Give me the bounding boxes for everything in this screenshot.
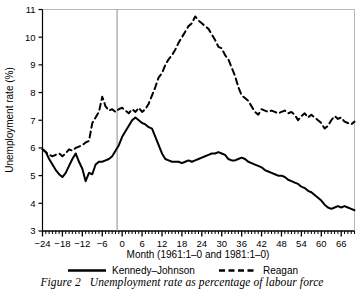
figure-caption-text: Unemployment rate as percentage of labou… bbox=[90, 276, 324, 288]
unemployment-rate-chart: 34567891011 −24−18−12−606121824303642485… bbox=[0, 0, 364, 297]
x-axis-tick-label: 30 bbox=[216, 238, 227, 249]
x-axis-tick-labels: −24−18−12−60612182430364248546066 bbox=[34, 238, 346, 249]
y-axis-tick-label: 8 bbox=[30, 87, 35, 98]
y-axis-tick-label: 7 bbox=[30, 115, 35, 126]
x-axis-tick-label: −18 bbox=[54, 238, 70, 249]
x-axis-tick-label: 42 bbox=[256, 238, 267, 249]
y-axis-tick-label: 5 bbox=[30, 170, 35, 181]
y-axis-tick-labels: 34567891011 bbox=[25, 4, 36, 237]
legend-label-reagan: Reagan bbox=[263, 265, 298, 276]
x-axis-tick-label: −24 bbox=[34, 238, 50, 249]
x-axis-tick-label: 54 bbox=[296, 238, 307, 249]
x-axis-tick-label: 18 bbox=[177, 238, 188, 249]
legend-label-kennedy-johnson: Kennedy–Johnson bbox=[112, 265, 195, 276]
y-axis-tick-label: 11 bbox=[26, 4, 36, 15]
figure-container: 34567891011 −24−18−12−606121824303642485… bbox=[0, 0, 364, 297]
y-axis-tick-label: 4 bbox=[30, 198, 35, 209]
y-axis-tick-label: 6 bbox=[30, 142, 35, 153]
x-axis-tick-label: 6 bbox=[139, 238, 144, 249]
y-axis-title: Unemployment rate (%) bbox=[4, 67, 15, 173]
y-axis-tick-label: 10 bbox=[25, 32, 36, 43]
x-axis-tick-label: 0 bbox=[120, 238, 125, 249]
plot-area-background bbox=[43, 10, 355, 232]
x-axis-tick-label: −12 bbox=[74, 238, 90, 249]
figure-caption: Figure 2Unemployment rate as percentage … bbox=[0, 276, 364, 288]
figure-caption-number: Figure 2 bbox=[40, 276, 80, 288]
x-axis-tick-label: 12 bbox=[157, 238, 168, 249]
y-axis-tick-label: 3 bbox=[30, 225, 35, 236]
x-axis-tick-label: 24 bbox=[197, 238, 208, 249]
chart-legend: Kennedy–Johnson Reagan bbox=[68, 265, 298, 276]
x-axis-tick-label: −6 bbox=[97, 238, 108, 249]
x-axis-tick-label: 60 bbox=[316, 238, 327, 249]
y-axis-tick-label: 9 bbox=[30, 59, 35, 70]
x-axis-tick-label: 36 bbox=[236, 238, 247, 249]
x-axis-tick-label: 66 bbox=[336, 238, 347, 249]
x-axis-tick-label: 48 bbox=[276, 238, 287, 249]
x-axis-title: Month (1961:1–0 and 1981:1–0) bbox=[127, 249, 270, 260]
